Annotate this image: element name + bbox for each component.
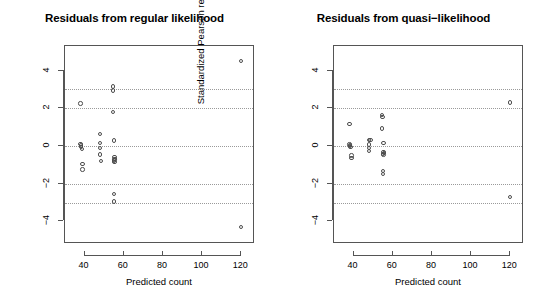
data-point bbox=[111, 88, 115, 92]
x-tick-label: 80 bbox=[149, 260, 175, 270]
gridline bbox=[65, 146, 253, 147]
gridline bbox=[334, 108, 522, 109]
y-tick-label: 4 bbox=[310, 62, 320, 78]
data-point bbox=[112, 138, 116, 142]
data-point bbox=[112, 199, 116, 203]
figure-residual-diagnostics: Residuals from regular likelihood Standa… bbox=[0, 0, 538, 305]
plot-area bbox=[333, 45, 523, 243]
data-point bbox=[367, 149, 371, 153]
gridline bbox=[334, 203, 522, 204]
y-tick-mark bbox=[58, 220, 63, 221]
panel-title: Residuals from regular likelihood bbox=[0, 12, 269, 24]
y-tick-label: −2 bbox=[41, 175, 51, 191]
panel-title: Residuals from quasi−likelihood bbox=[269, 12, 538, 24]
data-point bbox=[380, 115, 384, 119]
data-point bbox=[99, 159, 103, 163]
data-point bbox=[80, 167, 84, 171]
y-tick-mark bbox=[58, 183, 63, 184]
y-tick-mark bbox=[327, 183, 332, 184]
y-axis-label: Standardized Pearson residuals bbox=[195, 0, 211, 136]
panel-regular-likelihood: Residuals from regular likelihood Standa… bbox=[0, 0, 269, 305]
x-tick-mark bbox=[162, 251, 163, 256]
data-point bbox=[111, 110, 115, 114]
y-tick-label: 4 bbox=[41, 62, 51, 78]
x-tick-mark bbox=[201, 251, 202, 256]
data-point bbox=[98, 132, 102, 136]
x-tick-label: 120 bbox=[227, 260, 253, 270]
gridline bbox=[334, 146, 522, 147]
data-point bbox=[508, 195, 512, 199]
plot-area bbox=[64, 45, 254, 243]
data-point bbox=[78, 101, 82, 105]
data-point bbox=[381, 172, 385, 176]
x-tick-label: 60 bbox=[379, 260, 405, 270]
data-point bbox=[381, 152, 385, 156]
y-tick-label: 2 bbox=[41, 99, 51, 115]
y-axis-line bbox=[63, 70, 64, 221]
y-tick-mark bbox=[58, 145, 63, 146]
gridline bbox=[65, 203, 253, 204]
x-tick-label: 80 bbox=[418, 260, 444, 270]
data-point bbox=[380, 126, 384, 130]
data-point bbox=[112, 160, 116, 164]
x-axis-label: Predicted count bbox=[333, 276, 523, 287]
panel-quasi-likelihood: Residuals from quasi−likelihood Standard… bbox=[269, 0, 538, 305]
x-tick-label: 120 bbox=[496, 260, 522, 270]
data-point bbox=[98, 146, 102, 150]
x-tick-label: 60 bbox=[110, 260, 136, 270]
data-point bbox=[80, 162, 84, 166]
y-tick-mark bbox=[327, 107, 332, 108]
x-tick-label: 100 bbox=[457, 260, 483, 270]
y-axis-line bbox=[332, 70, 333, 221]
gridline bbox=[334, 89, 522, 90]
y-tick-mark bbox=[327, 70, 332, 71]
x-tick-mark bbox=[392, 251, 393, 256]
y-tick-mark bbox=[58, 70, 63, 71]
data-point bbox=[239, 59, 243, 63]
gridline bbox=[65, 108, 253, 109]
data-point bbox=[349, 156, 353, 160]
gridline bbox=[65, 184, 253, 185]
y-tick-mark bbox=[327, 145, 332, 146]
data-point bbox=[347, 122, 351, 126]
data-point bbox=[79, 143, 83, 147]
y-tick-label: −4 bbox=[41, 212, 51, 228]
y-tick-label: 0 bbox=[41, 137, 51, 153]
x-tick-mark bbox=[123, 251, 124, 256]
y-tick-label: −2 bbox=[310, 175, 320, 191]
data-point bbox=[381, 141, 385, 145]
data-point bbox=[98, 152, 102, 156]
gridline bbox=[65, 89, 253, 90]
y-tick-mark bbox=[327, 220, 332, 221]
x-tick-mark bbox=[353, 251, 354, 256]
x-tick-mark bbox=[509, 251, 510, 256]
y-tick-label: 0 bbox=[310, 137, 320, 153]
y-tick-mark bbox=[58, 107, 63, 108]
x-tick-mark bbox=[84, 251, 85, 256]
x-axis-label: Predicted count bbox=[64, 276, 254, 287]
x-tick-mark bbox=[470, 251, 471, 256]
x-tick-label: 40 bbox=[340, 260, 366, 270]
x-tick-label: 40 bbox=[71, 260, 97, 270]
x-tick-mark bbox=[431, 251, 432, 256]
data-point bbox=[239, 225, 243, 229]
x-tick-mark bbox=[240, 251, 241, 256]
x-tick-label: 100 bbox=[188, 260, 214, 270]
data-point bbox=[98, 141, 102, 145]
y-tick-label: −4 bbox=[310, 212, 320, 228]
data-point bbox=[112, 192, 116, 196]
gridline bbox=[334, 184, 522, 185]
y-tick-label: 2 bbox=[310, 99, 320, 115]
data-point bbox=[508, 100, 512, 104]
